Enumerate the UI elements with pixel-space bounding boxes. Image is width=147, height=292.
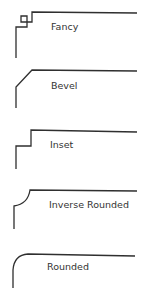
label-inset: Inset bbox=[50, 139, 73, 150]
inset-corner-shape bbox=[16, 130, 137, 169]
label-rounded: Rounded bbox=[47, 261, 89, 272]
label-fancy: Fancy bbox=[51, 21, 78, 32]
fancy-corner-shape bbox=[16, 12, 137, 58]
label-inverse-rounded: Inverse Rounded bbox=[49, 199, 129, 210]
corner-styles-diagram bbox=[0, 0, 147, 292]
label-bevel: Bevel bbox=[51, 80, 77, 91]
